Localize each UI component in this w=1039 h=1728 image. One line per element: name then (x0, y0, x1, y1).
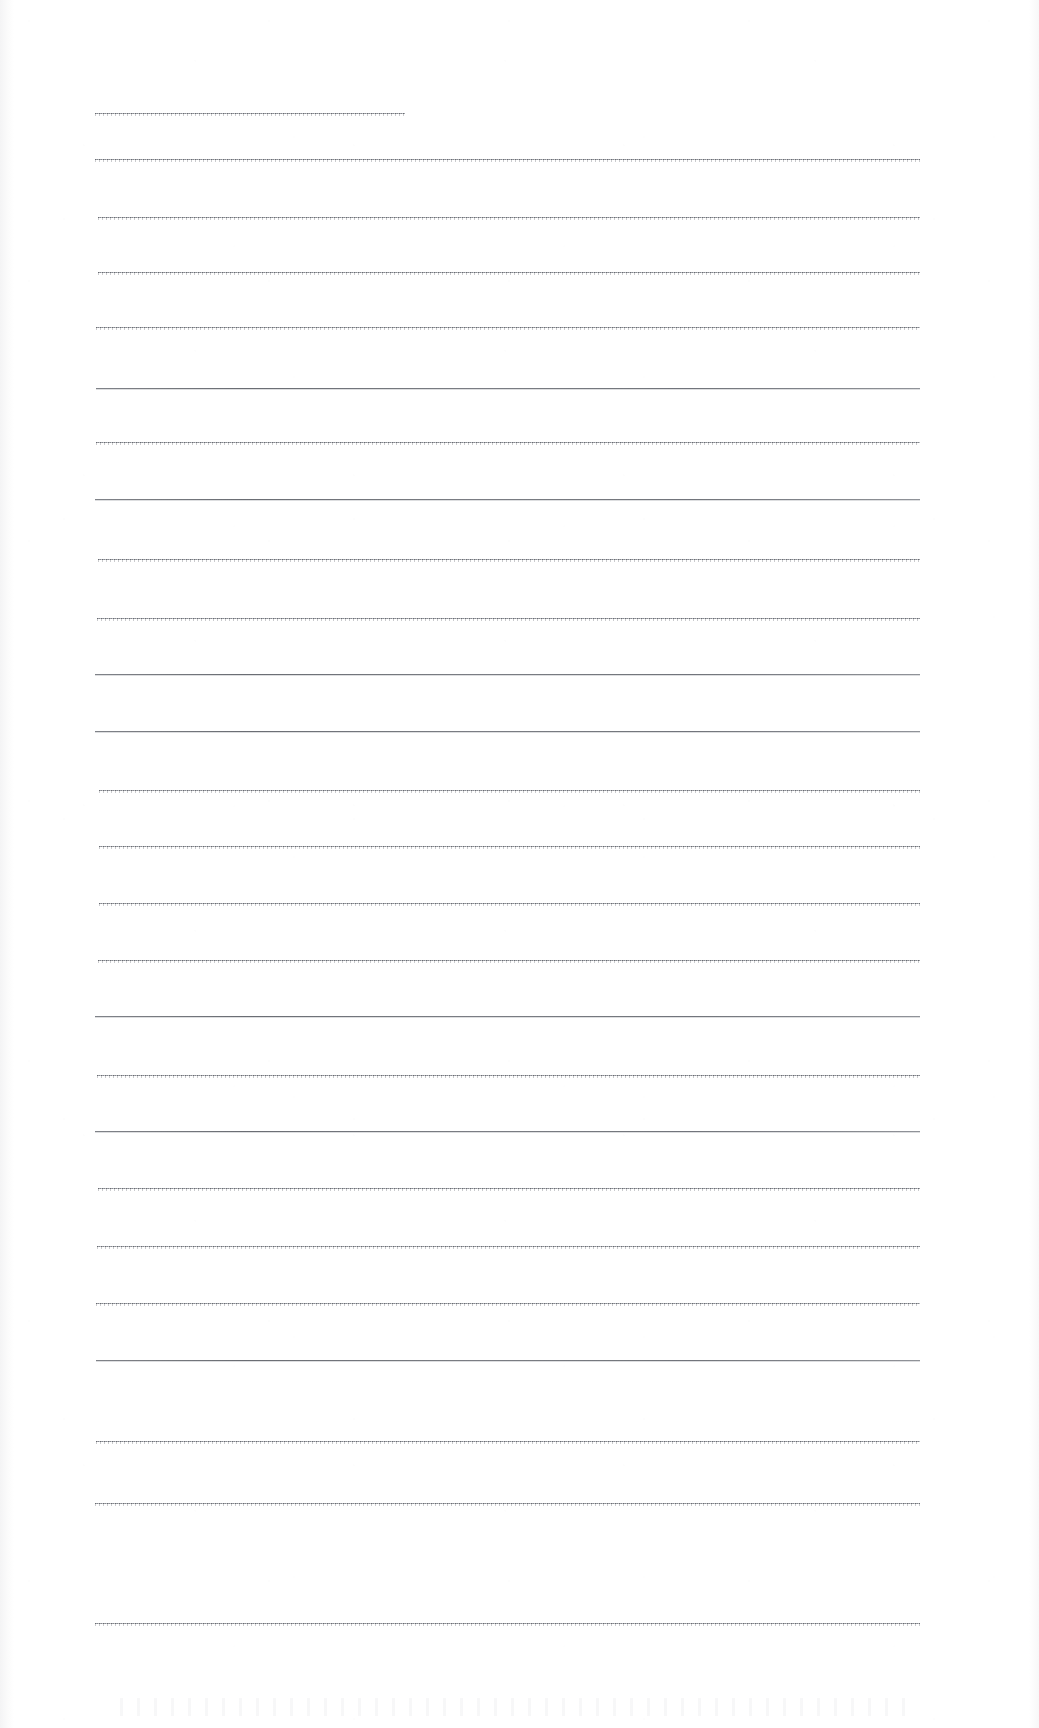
rule-line-halo (96, 1361, 920, 1362)
rule-line (96, 442, 920, 444)
rule-line (98, 217, 920, 219)
rule-line-halo (95, 1132, 920, 1133)
rule-line-halo (97, 1076, 920, 1078)
rule-line-halo (99, 904, 920, 906)
rule-line (98, 272, 920, 274)
rule-line-halo (97, 619, 920, 621)
rule-line (96, 1303, 920, 1305)
rule-line (96, 1360, 920, 1361)
rule-line-halo (96, 1442, 920, 1444)
rule-line (95, 1503, 920, 1505)
rule-line (99, 790, 920, 792)
rule-line (96, 1441, 920, 1443)
rule-line-halo (98, 1189, 920, 1191)
rule-line-halo (95, 732, 920, 733)
rule-line-halo (99, 791, 920, 793)
rule-line-halo (95, 1017, 920, 1018)
rule-line (99, 846, 920, 848)
rule-line (95, 499, 920, 500)
rule-line-halo (96, 389, 920, 390)
rule-line-halo (99, 847, 920, 849)
rule-line-halo (96, 1304, 920, 1306)
rule-line (99, 903, 920, 905)
rule-line-halo (98, 273, 920, 275)
rule-line (97, 1246, 920, 1248)
rule-line (95, 113, 405, 115)
rule-line-halo (97, 1247, 920, 1249)
rule-line-halo (95, 675, 920, 676)
rule-line (95, 1623, 920, 1625)
rule-line (96, 388, 920, 389)
rule-line (98, 960, 920, 962)
rule-line (96, 327, 920, 329)
rule-line (97, 1075, 920, 1077)
rule-line-halo (95, 1624, 920, 1626)
rule-line-halo (95, 160, 920, 162)
rule-line (98, 559, 920, 561)
ruled-sheet (0, 0, 1039, 1728)
rule-line-halo (96, 328, 920, 330)
rule-line (95, 1131, 920, 1132)
rule-line-halo (95, 1504, 920, 1506)
rule-line (98, 1188, 920, 1190)
rule-line-halo (98, 961, 920, 963)
rule-line (97, 618, 920, 620)
rule-line-halo (95, 500, 920, 501)
rule-line (95, 674, 920, 675)
rule-line-halo (96, 443, 920, 445)
rule-line-halo (98, 560, 920, 562)
rule-line (95, 159, 920, 161)
rule-line (95, 731, 920, 732)
rule-line-halo (95, 114, 405, 116)
scanned-page (0, 0, 1039, 1728)
rule-line (95, 1016, 920, 1017)
rule-line-halo (98, 218, 920, 220)
